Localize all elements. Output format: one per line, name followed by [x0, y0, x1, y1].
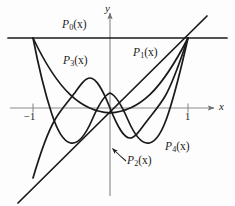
p2-leader-arrow: [113, 149, 127, 162]
legendre-polynomials-figure: P0(x) P1(x) P3(x) P2(x) P4(x) y x −1 1: [0, 0, 235, 206]
curve-label-p1-name: P: [133, 46, 140, 58]
x-tick-label-minus-one: −1: [24, 112, 35, 123]
curve-label-p3-name: P: [63, 54, 70, 66]
y-axis-label: y: [105, 3, 110, 14]
curve-label-p0-name: P: [62, 18, 69, 30]
curve-label-p4-arg: (x): [176, 140, 189, 152]
x-tick-label-one: 1: [185, 112, 190, 123]
curve-label-p4: P4(x): [165, 141, 190, 154]
curve-label-p2-arg: (x): [138, 154, 151, 166]
curve-label-p2: P2(x): [127, 155, 152, 168]
curve-label-p4-name: P: [165, 140, 172, 152]
x-axis-label: x: [219, 101, 224, 112]
curve-label-p1-arg: (x): [144, 46, 157, 58]
curve-p1: [18, 16, 207, 203]
curve-label-p3-arg: (x): [74, 54, 87, 66]
curve-label-p3: P3(x): [63, 55, 88, 68]
curve-label-p1: P1(x): [133, 47, 158, 60]
curve-label-p0: P0(x): [62, 19, 87, 32]
curve-label-p0-arg: (x): [73, 18, 86, 30]
plot-canvas: [0, 0, 235, 206]
curves-group: [8, 16, 227, 203]
curve-label-p2-name: P: [127, 154, 134, 166]
